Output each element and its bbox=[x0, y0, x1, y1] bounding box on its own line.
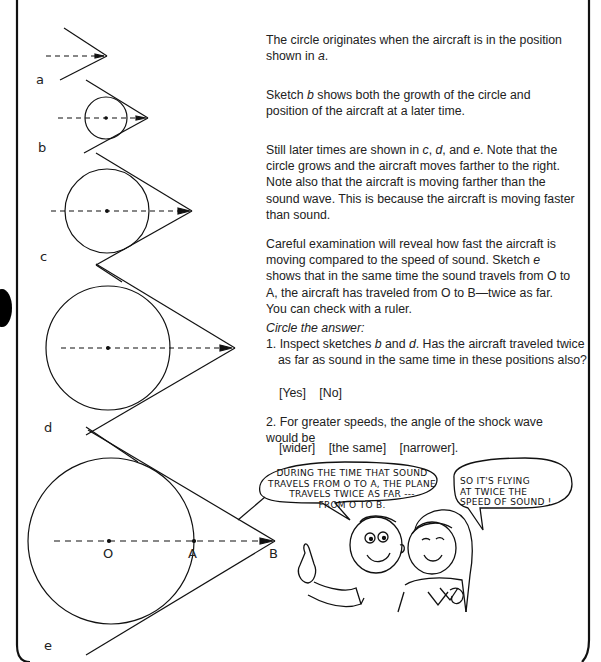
sketch-d bbox=[46, 264, 235, 462]
question-1: 1. Inspect sketches b and d. Has the air… bbox=[266, 336, 588, 368]
option-the-same[interactable]: [the same] bbox=[329, 441, 386, 455]
option-wider[interactable]: [wider] bbox=[279, 441, 315, 455]
page-border-right bbox=[582, 0, 589, 662]
page-border-left bbox=[17, 0, 30, 662]
paragraph-3: Still later times are shown in c, d, and… bbox=[266, 142, 576, 223]
girl-speech-text: SO IT'S FLYING AT TWICE THE SPEED OF SOU… bbox=[460, 476, 568, 508]
sketch-a bbox=[46, 28, 107, 80]
boy-speech-text: DURING THE TIME THAT SOUND TRAVELS FROM … bbox=[268, 468, 436, 510]
paragraph-2: Sketch b shows both the growth of the ci… bbox=[266, 87, 576, 119]
sketch-e bbox=[28, 430, 275, 655]
sketch-c bbox=[51, 153, 192, 282]
sketch-b bbox=[58, 80, 148, 153]
sketch-label-d: d bbox=[44, 420, 52, 435]
point-label-O: O bbox=[103, 546, 113, 561]
option-no[interactable]: [No] bbox=[319, 386, 342, 400]
question-1-options: [Yes] [No] bbox=[279, 386, 352, 400]
option-yes[interactable]: [Yes] bbox=[279, 386, 306, 400]
point-label-A: A bbox=[188, 546, 197, 561]
paragraph-1: The circle originates when the aircraft … bbox=[266, 32, 576, 64]
paragraph-4: Careful examination will reveal how fast… bbox=[266, 236, 576, 317]
sketch-label-e: e bbox=[44, 638, 52, 653]
sketch-label-b: b bbox=[38, 140, 46, 155]
worksheet-page: a b c d e O A B The circle originates wh… bbox=[0, 0, 601, 662]
option-narrower[interactable]: [narrower]. bbox=[399, 441, 458, 455]
point-label-B: B bbox=[269, 546, 278, 561]
question-2-options: [wider] [the same] [narrower]. bbox=[279, 441, 468, 455]
sketch-label-c: c bbox=[40, 249, 47, 264]
boy-illustration bbox=[298, 516, 404, 607]
girl-illustration bbox=[398, 510, 472, 612]
instruction: Circle the answer: bbox=[266, 320, 576, 336]
sketch-label-a: a bbox=[36, 72, 44, 87]
